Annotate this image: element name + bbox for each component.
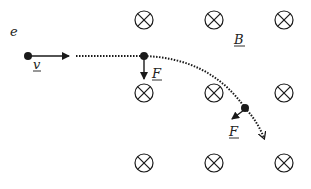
field-into-page-icon xyxy=(275,11,293,29)
field-into-page-icon xyxy=(275,84,293,102)
field-into-page-icon xyxy=(205,84,223,102)
field-into-page-icon xyxy=(135,154,153,172)
force-arrow-2 xyxy=(232,110,244,119)
field-into-page-icon xyxy=(275,154,293,172)
field-into-page-icon xyxy=(205,11,223,29)
field-into-page-icon xyxy=(205,154,223,172)
electron-label: e xyxy=(10,25,18,38)
curved-path-continuation xyxy=(245,108,264,138)
curved-path-dotted xyxy=(144,56,245,108)
force-label-1: F xyxy=(152,67,161,80)
velocity-label: v xyxy=(33,58,40,71)
field-into-page-icon xyxy=(135,11,153,29)
magnetic-field-grid xyxy=(135,11,293,172)
diagram-canvas: e v F B F xyxy=(0,0,311,189)
field-label: B xyxy=(234,33,244,46)
force-label-2: F xyxy=(229,125,238,138)
field-into-page-icon xyxy=(135,84,153,102)
